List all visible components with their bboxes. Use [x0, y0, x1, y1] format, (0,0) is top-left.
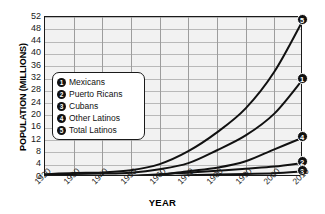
x-tick-label: 1920 [33, 167, 53, 187]
x-axis-title: YEAR [0, 197, 325, 208]
legend-item: 3Cubans [57, 100, 140, 112]
population-line-chart: POPULATION (MILLIONS) 524844403632282420… [0, 0, 325, 214]
legend-marker-icon: 3 [57, 102, 66, 111]
legend-item: 2Puerto Ricans [57, 88, 140, 100]
legend-item-label: Mexicans [69, 77, 105, 87]
legend-marker-icon: 1 [57, 78, 66, 87]
x-tick-label: 1960 [148, 167, 168, 187]
legend-marker-icon: 5 [57, 126, 66, 135]
legend-item: 5Total Latinos [57, 124, 140, 136]
x-axis-tick-labels: 1920193019401950196019701980199020002010 [0, 0, 325, 214]
legend-marker-icon: 4 [57, 114, 66, 123]
x-tick-label: 1970 [176, 167, 196, 187]
legend-item: 4Other Latinos [57, 112, 140, 124]
legend-item: 1Mexicans [57, 76, 140, 88]
x-tick-label: 2000 [262, 167, 282, 187]
x-tick-label: 1930 [62, 167, 82, 187]
legend-item-label: Total Latinos [69, 125, 117, 135]
x-tick-label: 1990 [234, 167, 254, 187]
legend-item-label: Cubans [69, 101, 98, 111]
legend-item-label: Puerto Ricans [69, 89, 122, 99]
legend-marker-icon: 2 [57, 90, 66, 99]
x-tick-label: 1950 [119, 167, 139, 187]
legend-item-label: Other Latinos [69, 113, 120, 123]
chart-legend: 1Mexicans2Puerto Ricans3Cubans4Other Lat… [52, 72, 145, 140]
x-tick-label: 2010 [291, 167, 311, 187]
x-tick-label: 1940 [90, 167, 110, 187]
x-tick-label: 1980 [205, 167, 225, 187]
